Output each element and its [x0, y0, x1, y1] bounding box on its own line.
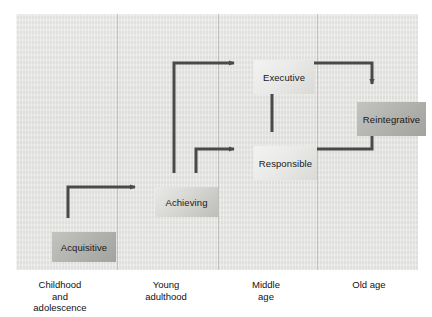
axis-label-middle-line1: Middle — [214, 279, 318, 291]
axis-label-middle-age: Middle age — [214, 279, 318, 302]
axis-label-childhood: Childhood and adolescence — [6, 279, 114, 314]
stage-label-acquisitive: Acquisitive — [61, 242, 108, 253]
arrow-achieving-to-executive — [174, 63, 234, 173]
axis-label-childhood-line3: adolescence — [6, 302, 114, 314]
stage-label-executive: Executive — [263, 72, 305, 83]
axis-label-middle-line2: age — [214, 291, 318, 303]
diagram-panel: Acquisitive Achieving Executive Responsi… — [16, 14, 418, 270]
axis-label-young-line1: Young — [114, 279, 218, 291]
stage-box-acquisitive[interactable]: Acquisitive — [52, 232, 116, 262]
axis-label-young-line2: adulthood — [114, 291, 218, 303]
arrow-achieving-to-responsible — [196, 149, 234, 173]
stage-box-responsible[interactable]: Responsible — [254, 146, 317, 180]
axis-label-childhood-line2: and — [6, 291, 114, 303]
axis-label-old-age: Old age — [314, 279, 424, 291]
stage-box-achieving[interactable]: Achieving — [155, 187, 218, 217]
stage-label-reintegrative: Reintegrative — [363, 114, 420, 125]
axis-label-old-line1: Old age — [314, 279, 424, 291]
axis-label-childhood-line1: Childhood — [6, 279, 114, 291]
axis-label-young-adulthood: Young adulthood — [114, 279, 218, 302]
arrow-acquisitive-to-achieving — [68, 187, 135, 218]
stage-box-reintegrative[interactable]: Reintegrative — [357, 102, 426, 136]
stage-box-executive[interactable]: Executive — [254, 60, 314, 94]
stage-label-achieving: Achieving — [165, 197, 207, 208]
stage-label-responsible: Responsible — [259, 158, 312, 169]
